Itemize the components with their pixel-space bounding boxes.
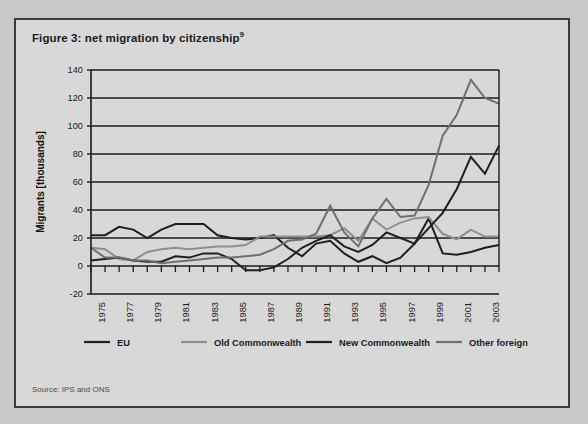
x-tick-label: 1983 — [210, 302, 220, 323]
legend-label-eu: EU — [117, 338, 130, 348]
y-tick-label: 0 — [78, 261, 83, 271]
x-tick-label: 1999 — [435, 302, 445, 323]
x-tick-label: 1987 — [266, 302, 276, 323]
y-tick-label: 140 — [67, 65, 83, 75]
x-axis-tick-labels: 1975197719791981198319851987198919911993… — [97, 302, 501, 323]
y-tick-label: -20 — [70, 289, 83, 299]
x-tick-label: 2001 — [463, 302, 473, 323]
x-tick-label: 1991 — [322, 302, 332, 323]
x-tick-label: 1989 — [294, 302, 304, 323]
x-tick-label: 1975 — [97, 302, 107, 323]
legend-label-other-foreign: Other foreign — [469, 338, 528, 348]
x-tick-label: 1977 — [125, 302, 135, 323]
x-tick-label: 2003 — [491, 302, 501, 323]
y-tick-label: 100 — [67, 121, 83, 131]
net-migration-line-chart: -20020406080100120140 197519771979198119… — [16, 20, 572, 410]
source-note: Source: IPS and ONS — [32, 385, 110, 394]
y-tick-label: 20 — [73, 233, 83, 243]
x-tick-label: 1979 — [153, 302, 163, 323]
chart-area: -20020406080100120140 197519771979198119… — [16, 20, 572, 410]
x-tick-label: 1981 — [181, 302, 191, 323]
y-tick-label: 120 — [67, 93, 83, 103]
legend-label-old-commonwealth: Old Commonwealth — [214, 338, 302, 348]
y-tick-label: 40 — [73, 205, 83, 215]
legend-label-new-commonwealth: New Commonwealth — [339, 338, 430, 348]
y-tick-label: 80 — [73, 149, 83, 159]
x-tick-label: 1993 — [350, 302, 360, 323]
chart-legend: EUOld CommonwealthNew CommonwealthOther … — [84, 338, 528, 348]
figure-panel: Figure 3: net migration by citizenship9 … — [14, 18, 570, 408]
y-axis-title: Migrants [thousands] — [35, 131, 46, 233]
y-axis-tick-labels: -20020406080100120140 — [67, 65, 83, 299]
x-tick-label: 1995 — [378, 302, 388, 323]
x-tick-label: 1997 — [407, 302, 417, 323]
series-lines — [91, 80, 499, 270]
x-tick-label: 1985 — [238, 302, 248, 323]
y-tick-label: 60 — [73, 177, 83, 187]
